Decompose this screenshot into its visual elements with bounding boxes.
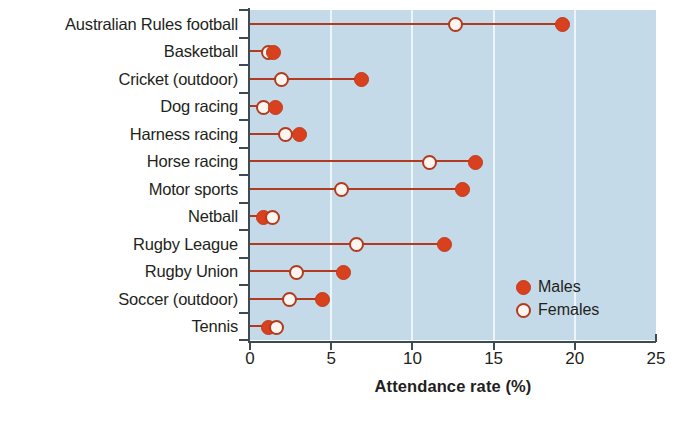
x-tick-label-25: 25 bbox=[636, 349, 676, 369]
data-point-female-cricket-outdoor bbox=[274, 72, 289, 87]
data-row-horse-racing bbox=[0, 150, 681, 172]
y-tick-4 bbox=[239, 119, 248, 121]
y-tick-5 bbox=[239, 147, 248, 149]
y-tick-2 bbox=[239, 64, 248, 66]
legend-item-males: Males bbox=[516, 275, 599, 298]
data-point-male-rugby-union bbox=[336, 265, 351, 280]
data-point-male-rugby-league bbox=[437, 237, 452, 252]
data-point-female-australian-rules-football bbox=[448, 17, 463, 32]
data-point-female-soccer-outdoor bbox=[282, 292, 297, 307]
data-point-male-cricket-outdoor bbox=[354, 72, 369, 87]
x-tick-label-15: 15 bbox=[474, 349, 514, 369]
y-tick-8 bbox=[239, 229, 248, 231]
y-tick-7 bbox=[239, 202, 248, 204]
y-tick-10 bbox=[239, 284, 248, 286]
attendance-rate-dot-plot: Australian Rules footballBasketballCrick… bbox=[0, 0, 681, 421]
connector-line-cricket-outdoor bbox=[250, 78, 360, 80]
y-tick-0 bbox=[239, 9, 248, 11]
data-point-male-dog-racing bbox=[268, 100, 283, 115]
data-point-female-motor-sports bbox=[334, 182, 349, 197]
legend-marker-males-icon bbox=[516, 280, 531, 295]
legend-label-males: Males bbox=[538, 278, 581, 295]
y-tick-3 bbox=[239, 92, 248, 94]
legend-label-females: Females bbox=[538, 301, 599, 318]
data-row-rugby-league bbox=[0, 233, 681, 255]
data-point-male-soccer-outdoor bbox=[315, 292, 330, 307]
data-point-female-tennis bbox=[269, 320, 284, 335]
y-tick-1 bbox=[239, 37, 248, 39]
data-point-female-rugby-union bbox=[289, 265, 304, 280]
data-row-motor-sports bbox=[0, 178, 681, 200]
data-point-male-harness-racing bbox=[292, 127, 307, 142]
data-row-dog-racing bbox=[0, 95, 681, 117]
legend-item-females: Females bbox=[516, 298, 599, 321]
data-point-male-horse-racing bbox=[468, 155, 483, 170]
x-axis-line bbox=[248, 341, 656, 343]
data-point-male-basketball bbox=[266, 45, 281, 60]
data-row-cricket-outdoor bbox=[0, 68, 681, 90]
data-row-australian-rules-football bbox=[0, 13, 681, 35]
x-tick-label-10: 10 bbox=[392, 349, 432, 369]
y-tick-9 bbox=[239, 257, 248, 259]
data-row-netball bbox=[0, 205, 681, 227]
connector-line-rugby-league bbox=[250, 243, 443, 245]
connector-line-horse-racing bbox=[250, 160, 474, 162]
y-tick-12 bbox=[239, 339, 248, 341]
data-point-male-australian-rules-football bbox=[555, 17, 570, 32]
data-point-female-horse-racing bbox=[422, 155, 437, 170]
x-axis-title: Attendance rate (%) bbox=[250, 377, 656, 396]
data-point-female-netball bbox=[265, 210, 280, 225]
data-row-basketball bbox=[0, 40, 681, 62]
x-tick-label-5: 5 bbox=[311, 349, 351, 369]
data-point-female-harness-racing bbox=[278, 127, 293, 142]
y-tick-11 bbox=[239, 312, 248, 314]
legend-marker-females-icon bbox=[516, 303, 531, 318]
data-point-male-motor-sports bbox=[455, 182, 470, 197]
connector-line-motor-sports bbox=[250, 188, 461, 190]
y-tick-6 bbox=[239, 174, 248, 176]
data-point-female-rugby-league bbox=[349, 237, 364, 252]
legend: Males Females bbox=[516, 275, 599, 321]
x-tick-label-0: 0 bbox=[230, 349, 270, 369]
data-row-harness-racing bbox=[0, 123, 681, 145]
x-tick-label-20: 20 bbox=[555, 349, 595, 369]
connector-line-australian-rules-football bbox=[250, 23, 562, 25]
